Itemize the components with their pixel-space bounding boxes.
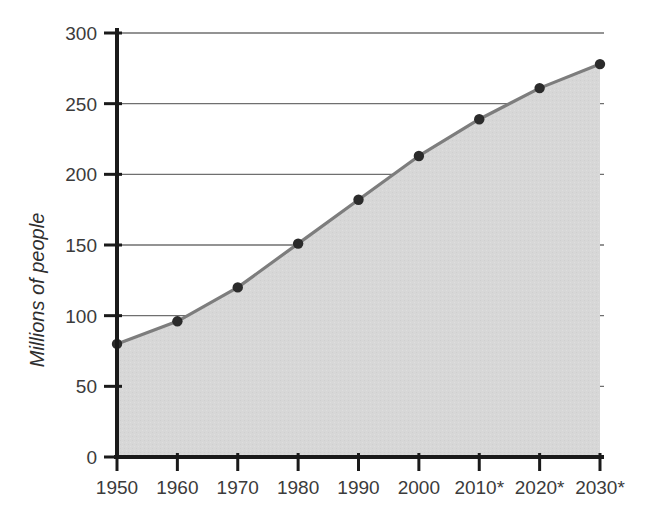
x-axis-tick-labels: 1950196019701980199020002010*2020*2030* xyxy=(96,477,626,498)
x-axis-tick-label: 2030* xyxy=(575,477,625,498)
data-point-marker xyxy=(353,195,363,205)
x-axis-tick-label: 1960 xyxy=(156,477,198,498)
chart-container: 050100150200250300 195019601970198019902… xyxy=(0,0,658,521)
data-point-marker xyxy=(474,114,484,124)
y-axis-title: Millions of people xyxy=(26,213,48,368)
data-point-marker xyxy=(595,59,605,69)
x-axis-tick-label: 2010* xyxy=(454,477,504,498)
data-point-marker xyxy=(233,282,243,292)
y-axis-tick-label: 0 xyxy=(86,447,97,468)
y-axis-tick-label: 300 xyxy=(65,23,97,44)
x-axis-tick-label: 2020* xyxy=(515,477,565,498)
x-axis-tick-label: 2000 xyxy=(398,477,440,498)
y-axis-tick-label: 100 xyxy=(65,306,97,327)
y-axis-tick-label: 250 xyxy=(65,94,97,115)
y-axis-tick-label: 150 xyxy=(65,235,97,256)
data-point-marker xyxy=(293,238,303,248)
data-point-marker xyxy=(414,151,424,161)
y-axis-tick-label: 200 xyxy=(65,164,97,185)
data-point-marker xyxy=(534,83,544,93)
x-axis-tick-label: 1970 xyxy=(217,477,259,498)
population-area-chart: 050100150200250300 195019601970198019902… xyxy=(0,0,658,521)
y-axis-tick-label: 50 xyxy=(76,376,97,397)
x-axis-tick-label: 1980 xyxy=(277,477,319,498)
x-axis-tick-label: 1990 xyxy=(337,477,379,498)
data-point-marker xyxy=(172,316,182,326)
x-axis-tick-label: 1950 xyxy=(96,477,138,498)
